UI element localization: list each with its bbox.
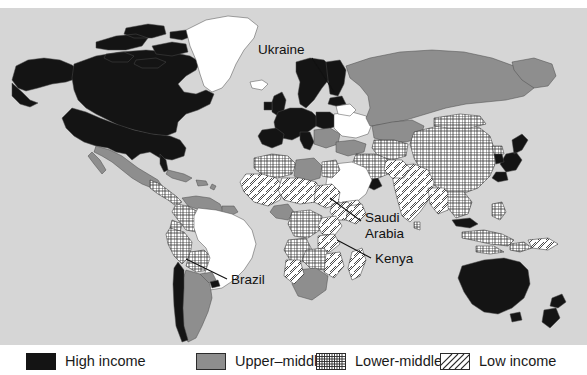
map-panel: Ukraine Saudi Arabia Kenya Brazil bbox=[0, 8, 587, 345]
cross-hatch-pattern-icon bbox=[317, 354, 345, 369]
legend-entry-lower-middle: Lower-middle bbox=[316, 350, 442, 372]
diagonal-hatch-pattern-icon bbox=[441, 354, 469, 369]
world-map-svg: Ukraine Saudi Arabia Kenya Brazil bbox=[0, 8, 587, 345]
legend-swatch-lower-middle bbox=[316, 353, 346, 370]
country-south-korea bbox=[494, 154, 504, 164]
legend-entry-low-income: Low income bbox=[440, 350, 556, 372]
legend-swatch-upper-middle bbox=[196, 353, 226, 370]
legend-label-low-income: Low income bbox=[479, 354, 556, 369]
map-label-saudi-line2: Arabia bbox=[365, 226, 405, 241]
legend-label-lower-middle: Lower-middle bbox=[355, 354, 442, 369]
region-tasmania bbox=[510, 312, 522, 322]
legend-label-high-income: High income bbox=[65, 354, 146, 369]
country-ireland bbox=[264, 102, 272, 110]
legend-label-upper-middle: Upper–middle bbox=[235, 354, 325, 369]
region-hispaniola bbox=[196, 180, 208, 186]
legend-entry-high-income: High income bbox=[26, 350, 146, 372]
map-label-saudi-line1: Saudi bbox=[365, 210, 400, 225]
income-group-legend: High income Upper–middle Lower-middle bbox=[0, 347, 587, 375]
map-label-brazil: Brazil bbox=[231, 272, 265, 287]
legend-swatch-high-income bbox=[26, 353, 56, 370]
legend-swatch-low-income bbox=[440, 353, 470, 370]
world-income-map-figure: Ukraine Saudi Arabia Kenya Brazil High i… bbox=[0, 0, 587, 375]
region-korea-north bbox=[492, 146, 504, 154]
map-label-kenya: Kenya bbox=[375, 251, 414, 266]
map-label-ukraine: Ukraine bbox=[258, 42, 305, 57]
legend-entry-upper-middle: Upper–middle bbox=[196, 350, 325, 372]
